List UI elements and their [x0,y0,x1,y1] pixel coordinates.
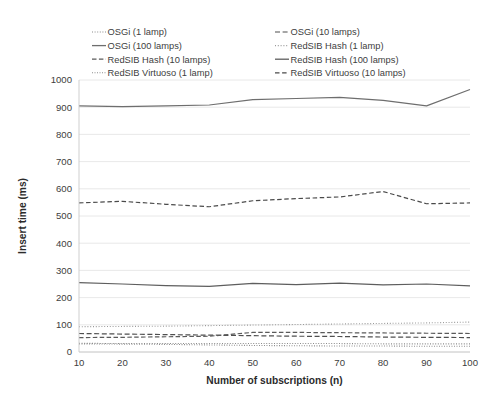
y-tick-label: 300 [56,265,72,276]
chart-canvas: OSGi (1 lamp)OSGi (10 lamps)OSGi (100 la… [0,0,489,406]
x-tick-label: 70 [334,357,345,368]
y-tick-label: 1000 [51,74,72,85]
y-tick-label: 0 [67,346,72,357]
y-tick-label: 900 [56,102,72,113]
x-tick-label: 10 [74,357,85,368]
y-tick-label: 500 [56,210,72,221]
y-tick-label: 400 [56,238,72,249]
x-tick-label: 90 [421,357,432,368]
line-chart: OSGi (1 lamp)OSGi (10 lamps)OSGi (100 la… [0,0,489,406]
legend-item[interactable]: RedSIB Hash (10 lamps) [92,55,210,65]
x-tick-label: 30 [161,357,172,368]
x-tick-label: 40 [204,357,215,368]
legend-item[interactable]: RedSIB Hash (1 lamp) [275,41,384,51]
y-tick-label: 700 [56,156,72,167]
y-axis-title: Insert time (ms) [17,178,28,254]
legend-label: RedSIB Virtuoso (10 lamps) [291,68,406,78]
legend-label: OSGi (10 lamps) [291,27,360,37]
y-tick-label: 800 [56,129,72,140]
y-tick-label: 200 [56,292,72,303]
legend-label: OSGi (1 lamp) [108,27,167,37]
x-tick-label: 80 [378,357,389,368]
y-tick-label: 600 [56,183,72,194]
legend-item[interactable]: RedSIB Hash (100 lamps) [275,55,399,65]
legend-label: RedSIB Hash (100 lamps) [291,55,399,65]
x-axis-title: Number of subscriptions (n) [206,375,342,386]
x-tick-label: 50 [247,357,258,368]
legend-label: RedSIB Hash (1 lamp) [291,41,384,51]
x-tick-label: 60 [291,357,302,368]
legend-label: RedSIB Virtuoso (1 lamp) [108,68,213,78]
legend-item[interactable]: RedSIB Virtuoso (10 lamps) [275,68,406,78]
x-tick-label: 20 [117,357,128,368]
legend-item[interactable]: RedSIB Virtuoso (1 lamp) [92,68,213,78]
y-tick-label: 100 [56,319,72,330]
legend-label: OSGi (100 lamps) [108,41,182,51]
x-tick-label: 100 [462,357,478,368]
legend-label: RedSIB Hash (10 lamps) [108,55,211,65]
